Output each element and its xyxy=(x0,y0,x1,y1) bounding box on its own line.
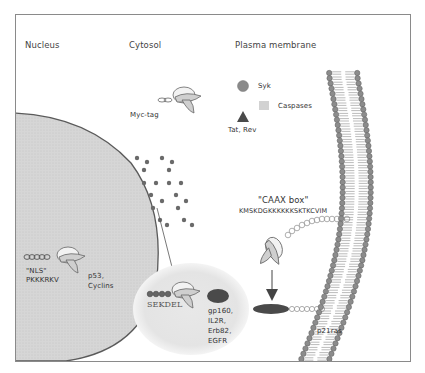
label-nls-sequence: PKKKRKV xyxy=(26,275,59,285)
intrabody-cytosol-icon xyxy=(173,87,201,113)
intrabody-membrane-icon xyxy=(253,235,287,270)
label-caax-sequence: KMSKDGKKKKKKSKTKCVIM xyxy=(239,206,327,216)
legend-label-caspases: Caspases xyxy=(278,101,312,111)
legend-label-tat-rev: Tat, Rev xyxy=(228,125,256,135)
label-sekdel: SEKDEL xyxy=(147,300,182,310)
label-p21ras: p21ras xyxy=(317,326,342,336)
nuclear-target-cyclins: Cyclins xyxy=(88,281,114,291)
nuclear-target-p53: p53, xyxy=(88,271,114,281)
tat-rev-triangle-icon xyxy=(237,111,249,122)
er-target-egfr: EGFR xyxy=(208,336,233,346)
label-er-targets: gp160, IL2R, Erb82, EGFR xyxy=(208,306,233,346)
myc-tag-chain xyxy=(158,98,172,102)
region-label-cytosol: Cytosol xyxy=(129,40,161,50)
er-target-erbb2: Erb82, xyxy=(208,326,233,336)
caspases-icon xyxy=(259,101,269,110)
er-target-il2r: IL2R, xyxy=(208,316,233,326)
label-myc-tag: Myc-tag xyxy=(130,110,159,120)
p21ras-protein xyxy=(253,304,289,314)
label-caax-title: "CAAX box" xyxy=(258,195,309,205)
region-label-plasma-membrane: Plasma membrane xyxy=(235,40,316,50)
connector-line xyxy=(157,208,173,271)
er-target-gp160: gp160, xyxy=(208,306,233,316)
label-nuclear-targets: p53, Cyclins xyxy=(88,271,114,291)
legend-label-syk: Syk xyxy=(258,81,271,91)
diagram-frame: Nucleus Cytosol Plasma membrane Syk Casp… xyxy=(15,14,411,362)
er-target-protein xyxy=(207,289,229,303)
arrow-head-icon xyxy=(266,289,278,301)
region-label-nucleus: Nucleus xyxy=(25,40,60,50)
syk-icon xyxy=(238,81,249,92)
